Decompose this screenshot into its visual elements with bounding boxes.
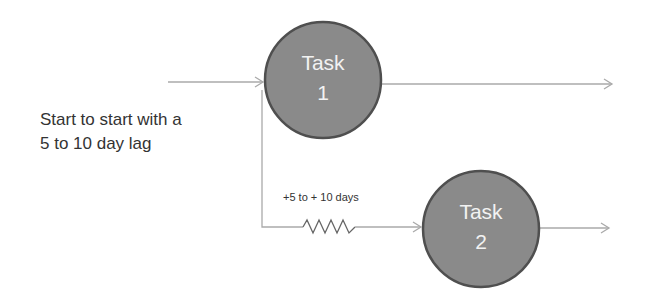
- task1-outgoing-arrow: [382, 79, 612, 89]
- task2-label-line1: Task: [423, 197, 539, 227]
- task2-label: Task 2: [423, 197, 539, 257]
- incoming-arrow: [168, 77, 263, 87]
- task1-label-line2: 1: [265, 78, 381, 108]
- caption-line-2: 5 to 10 day lag: [40, 132, 182, 156]
- task1-label-line1: Task: [265, 48, 381, 78]
- lag-label: +5 to + 10 days: [283, 191, 359, 203]
- caption-line-1: Start to start with a: [40, 108, 182, 132]
- lag-zigzag-icon: [303, 220, 355, 233]
- task2-label-line2: 2: [423, 227, 539, 257]
- task1-label: Task 1: [265, 48, 381, 108]
- task2-outgoing-arrow: [540, 223, 609, 233]
- relationship-caption: Start to start with a 5 to 10 day lag: [40, 108, 182, 156]
